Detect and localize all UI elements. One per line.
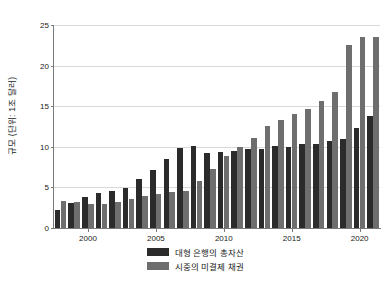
- bar: [313, 144, 319, 228]
- y-tick-label: 10: [40, 142, 49, 151]
- bar: [292, 114, 298, 228]
- y-axis-title: 규모 (단위: 1조 달러): [4, 0, 18, 232]
- y-tick-label: 5: [45, 183, 49, 192]
- bar: [340, 139, 346, 228]
- x-tick-mark: [88, 229, 89, 232]
- bar: [272, 146, 278, 228]
- bar: [204, 153, 210, 228]
- x-tick-mark: [156, 229, 157, 232]
- bar: [245, 149, 251, 228]
- y-tick-label: 25: [40, 21, 49, 30]
- bar: [373, 37, 379, 228]
- bar: [218, 152, 224, 228]
- x-tick-label: 2005: [147, 234, 165, 243]
- bar: [265, 126, 271, 228]
- bar: [305, 109, 311, 228]
- bar: [123, 188, 129, 228]
- x-tick-mark: [360, 229, 361, 232]
- bar: [367, 116, 373, 228]
- bar: [210, 169, 216, 228]
- x-axis-ticks: 20002005201020152020: [54, 229, 380, 247]
- bar: [346, 45, 352, 228]
- bar: [55, 210, 61, 228]
- bar: [286, 147, 292, 228]
- bar: [354, 128, 360, 228]
- y-tick-label: 20: [40, 61, 49, 70]
- legend-swatch-icon: [147, 248, 169, 256]
- bar: [191, 146, 197, 228]
- legend-item-label: 대형 은행의 총자산: [175, 246, 244, 258]
- bar: [136, 179, 142, 228]
- bar: [360, 37, 366, 228]
- bar: [224, 156, 230, 228]
- bar-chart: 규모 (단위: 1조 달러) 0510152025 20002005201020…: [0, 0, 391, 289]
- bar: [74, 202, 80, 228]
- bar: [88, 204, 94, 228]
- plot-area: 0510152025: [54, 25, 380, 228]
- y-axis-line: [53, 25, 54, 229]
- bar: [150, 170, 156, 228]
- legend-item[interactable]: 시중의 미결제 채권: [147, 260, 244, 272]
- bar: [299, 144, 305, 228]
- x-tick-label: 2010: [215, 234, 233, 243]
- legend-swatch-icon: [147, 262, 169, 270]
- x-tick-mark: [292, 229, 293, 232]
- x-tick-label: 2000: [79, 234, 97, 243]
- bar: [68, 203, 74, 228]
- bar: [197, 181, 203, 228]
- y-axis-title-text: 규모 (단위: 1조 달러): [5, 77, 17, 156]
- bar: [231, 151, 237, 228]
- bar: [327, 141, 333, 228]
- bar-series-layer: [54, 25, 380, 228]
- bar: [61, 201, 67, 228]
- chart-legend: 대형 은행의 총자산시중의 미결제 채권: [0, 246, 391, 272]
- bar: [319, 101, 325, 228]
- y-tick-label: 0: [45, 224, 49, 233]
- bar: [169, 192, 175, 228]
- bar: [164, 159, 170, 228]
- bar: [237, 147, 243, 228]
- bar: [177, 148, 183, 228]
- bar: [115, 202, 121, 228]
- bar: [332, 92, 338, 228]
- bar: [278, 120, 284, 228]
- bar: [102, 204, 108, 228]
- bar: [183, 191, 189, 228]
- bar: [251, 138, 257, 228]
- x-tick-label: 2020: [351, 234, 369, 243]
- bar: [82, 197, 88, 228]
- bar: [142, 196, 148, 228]
- x-tick-mark: [224, 229, 225, 232]
- legend-item-label: 시중의 미결제 채권: [175, 260, 244, 272]
- bar: [96, 193, 102, 228]
- legend-item[interactable]: 대형 은행의 총자산: [147, 246, 244, 258]
- y-tick-label: 15: [40, 102, 49, 111]
- bar: [259, 149, 265, 228]
- bar: [129, 199, 135, 228]
- bar: [109, 191, 115, 228]
- bar: [156, 194, 162, 228]
- x-tick-label: 2015: [283, 234, 301, 243]
